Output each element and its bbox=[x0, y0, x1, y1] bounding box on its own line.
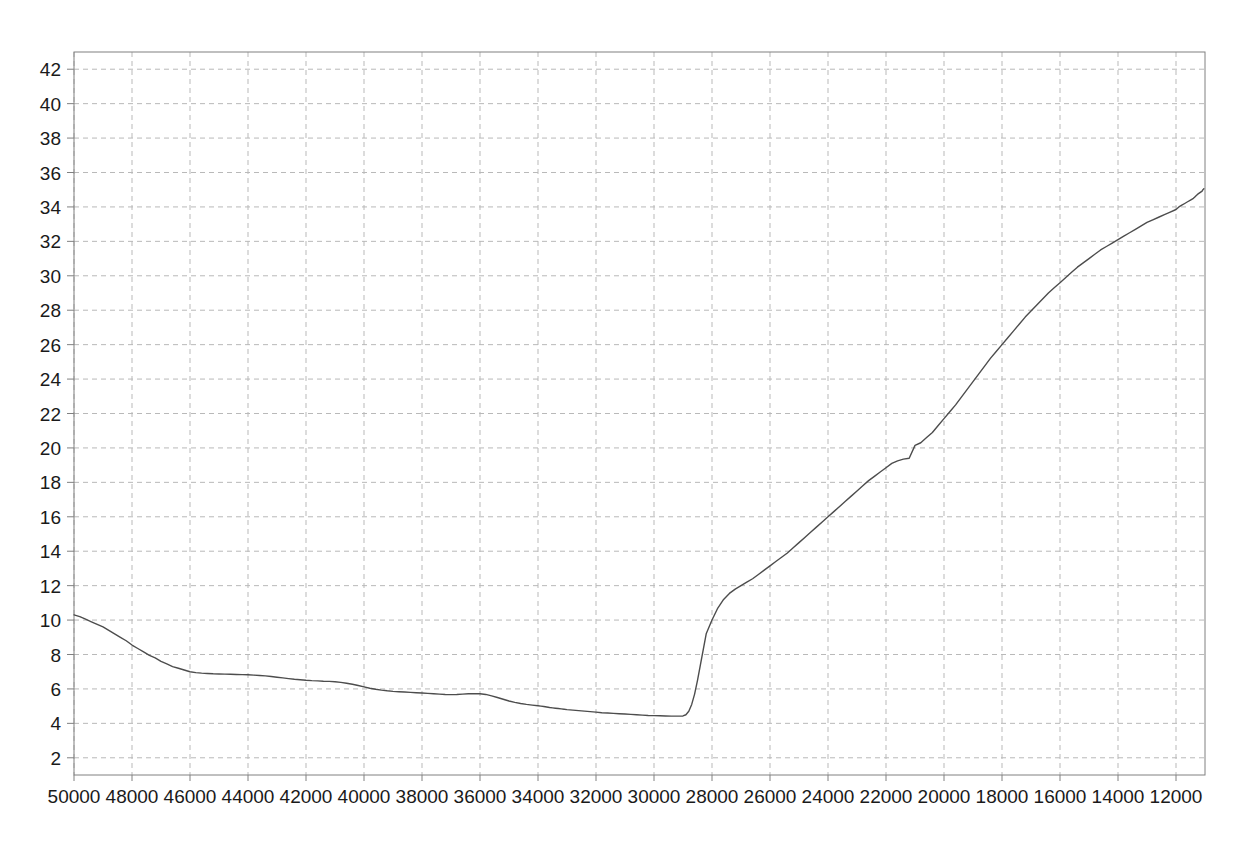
chart-background bbox=[0, 0, 1251, 841]
y-tick-label: 34 bbox=[40, 197, 62, 218]
y-tick-label: 14 bbox=[40, 541, 62, 562]
x-tick-label: 38000 bbox=[396, 786, 449, 807]
y-tick-label: 18 bbox=[40, 472, 61, 493]
x-tick-label: 30000 bbox=[628, 786, 681, 807]
x-tick-label: 48000 bbox=[106, 786, 159, 807]
y-tick-label: 4 bbox=[50, 713, 61, 734]
x-tick-label: 26000 bbox=[744, 786, 797, 807]
y-tick-label: 36 bbox=[40, 163, 61, 184]
line-chart: 5000048000460004400042000400003800036000… bbox=[0, 0, 1251, 841]
y-tick-label: 38 bbox=[40, 128, 61, 149]
x-tick-label: 18000 bbox=[976, 786, 1029, 807]
x-tick-label: 24000 bbox=[802, 786, 855, 807]
y-tick-label: 16 bbox=[40, 507, 61, 528]
x-tick-label: 20000 bbox=[918, 786, 971, 807]
x-tick-label: 32000 bbox=[570, 786, 623, 807]
y-tick-label: 2 bbox=[50, 748, 61, 769]
x-tick-label: 28000 bbox=[686, 786, 739, 807]
x-tick-label: 36000 bbox=[454, 786, 507, 807]
y-tick-label: 42 bbox=[40, 59, 61, 80]
x-tick-label: 16000 bbox=[1034, 786, 1087, 807]
x-tick-label: 46000 bbox=[164, 786, 217, 807]
x-tick-label: 44000 bbox=[222, 786, 275, 807]
y-tick-label: 22 bbox=[40, 404, 61, 425]
y-tick-label: 24 bbox=[40, 369, 62, 390]
x-tick-label: 12000 bbox=[1150, 786, 1203, 807]
chart-container: 5000048000460004400042000400003800036000… bbox=[0, 0, 1251, 841]
y-tick-label: 10 bbox=[40, 610, 61, 631]
y-tick-label: 20 bbox=[40, 438, 61, 459]
x-tick-label: 34000 bbox=[512, 786, 565, 807]
y-tick-label: 8 bbox=[50, 645, 61, 666]
y-tick-label: 30 bbox=[40, 266, 61, 287]
x-tick-label: 40000 bbox=[338, 786, 391, 807]
y-tick-label: 6 bbox=[50, 679, 61, 700]
y-tick-label: 40 bbox=[40, 94, 61, 115]
y-tick-label: 26 bbox=[40, 335, 61, 356]
x-tick-label: 42000 bbox=[280, 786, 333, 807]
y-tick-label: 32 bbox=[40, 231, 61, 252]
x-tick-label: 22000 bbox=[860, 786, 913, 807]
x-tick-label: 14000 bbox=[1092, 786, 1145, 807]
y-tick-label: 28 bbox=[40, 300, 61, 321]
x-tick-label: 50000 bbox=[48, 786, 101, 807]
y-tick-label: 12 bbox=[40, 576, 61, 597]
